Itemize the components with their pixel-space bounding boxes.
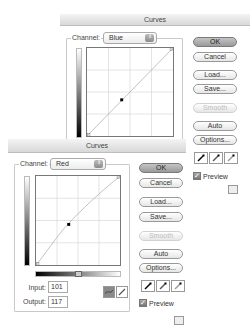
smooth-button[interactable]: Smooth (193, 103, 237, 113)
options-button[interactable]: Options... (139, 263, 183, 273)
black-eyedropper-icon[interactable] (194, 152, 208, 164)
input-slider-handle[interactable] (75, 271, 82, 277)
options-button[interactable]: Options... (193, 135, 237, 145)
gray-eyedropper-icon[interactable] (209, 152, 223, 164)
input-field[interactable]: 101 (48, 281, 68, 293)
select-arrows-icon: ⇕ (145, 34, 154, 42)
output-gradient-bar (24, 176, 30, 266)
curve-tool-icon (105, 289, 113, 295)
eyedropper-group (194, 152, 239, 164)
load-button[interactable]: Load... (193, 70, 237, 80)
channel-select[interactable]: Red ⇕ (50, 158, 106, 170)
gray-eyedropper-icon[interactable] (156, 280, 170, 292)
save-button[interactable]: Save... (139, 212, 183, 222)
curve-display-options-icon[interactable] (174, 316, 184, 325)
channel-select[interactable]: Blue ⇕ (103, 32, 157, 44)
select-arrows-icon: ⇕ (94, 160, 103, 168)
preview-label: Preview (149, 300, 174, 307)
eyedropper-group (141, 280, 186, 292)
preview-checkbox-row[interactable]: ✓ Preview (139, 299, 174, 307)
ok-button[interactable]: OK (193, 37, 237, 47)
pencil-icon (118, 288, 126, 296)
auto-button[interactable]: Auto (193, 121, 237, 131)
channel-label: Channel: (71, 34, 101, 41)
curve-graph[interactable] (35, 175, 121, 266)
cancel-button[interactable]: Cancel (193, 52, 237, 62)
input-gradient-bar (35, 271, 121, 277)
white-eyedropper-icon[interactable] (171, 280, 185, 292)
curve-grid-icon (87, 48, 173, 136)
channel-select-value: Red (56, 160, 69, 167)
curve-display-options-icon[interactable] (228, 185, 238, 194)
ok-button[interactable]: OK (139, 163, 183, 173)
black-eyedropper-icon[interactable] (141, 280, 155, 292)
output-label: Output: (18, 298, 46, 305)
curves-dialog-red: Curves Channel: Red ⇕ Input: 101 Output:… (8, 139, 186, 333)
white-eyedropper-icon[interactable] (224, 152, 238, 164)
input-label: Input: (22, 284, 46, 291)
preview-checkbox-row[interactable]: ✓ Preview (193, 172, 228, 180)
preview-checkbox[interactable]: ✓ (139, 299, 147, 307)
smooth-button[interactable]: Smooth (139, 231, 183, 241)
dialog-title-bar[interactable]: Curves (60, 14, 250, 26)
auto-button[interactable]: Auto (139, 249, 183, 259)
cancel-button[interactable]: Cancel (139, 178, 183, 188)
curve-tool-button[interactable] (103, 286, 115, 298)
save-button[interactable]: Save... (193, 84, 237, 94)
preview-checkbox[interactable]: ✓ (193, 172, 201, 180)
channel-label: Channel: (19, 160, 49, 167)
dialog-title-bar[interactable]: Curves (8, 139, 186, 153)
channel-select-value: Blue (109, 34, 123, 41)
curve-grid-icon (36, 176, 120, 265)
load-button[interactable]: Load... (139, 197, 183, 207)
output-field[interactable]: 117 (48, 296, 68, 308)
output-gradient-bar (76, 48, 82, 138)
curve-graph[interactable] (86, 47, 174, 137)
preview-label: Preview (203, 173, 228, 180)
pencil-tool-button[interactable] (116, 286, 128, 298)
